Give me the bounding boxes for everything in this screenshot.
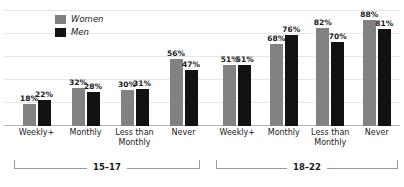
bar-women[interactable]: 30%	[121, 6, 134, 126]
bracket-label-15-17: 15–17	[87, 161, 127, 174]
bar-men[interactable]: 76%	[285, 6, 298, 126]
category-weekly-plus: 18% 22%	[12, 6, 61, 126]
x-label-line1: Weekly+	[214, 128, 261, 138]
bar-men[interactable]: 47%	[185, 6, 198, 126]
x-label-line2: Monthly	[110, 138, 159, 148]
bar-women[interactable]: 68%	[270, 6, 283, 126]
bar-rect-men[interactable]	[285, 35, 298, 126]
bar-value-women: 56%	[167, 49, 185, 58]
legend-swatch-women-icon	[55, 15, 66, 24]
bar-rect-men[interactable]	[331, 42, 344, 126]
bar-value-women: 82%	[314, 18, 332, 27]
x-label-monthly: Monthly	[61, 128, 110, 154]
bar-value-women: 68%	[267, 34, 285, 43]
bar-rect-women[interactable]	[170, 59, 183, 126]
legend-label-men: Men	[71, 28, 89, 37]
category-less-than-monthly: 82% 70%	[307, 6, 354, 126]
bar-men[interactable]: 70%	[331, 6, 344, 126]
x-label-less-than-monthly: Less than Monthly	[307, 128, 354, 154]
age-group-18-22: 51% 51% 68%	[214, 6, 400, 126]
bar-rect-women[interactable]	[223, 65, 236, 126]
x-label-line1: Weekly+	[12, 128, 61, 138]
group-brackets: 15–17 18–22	[4, 160, 400, 182]
bar-men[interactable]: 31%	[136, 6, 149, 126]
x-label-weekly-plus: Weekly+	[214, 128, 261, 154]
bar-women[interactable]: 56%	[170, 6, 183, 126]
plot-area: Women Men 18% 22%	[4, 6, 400, 126]
x-label-line2: Monthly	[307, 138, 354, 148]
bar-men[interactable]: 81%	[378, 6, 391, 126]
bar-women[interactable]: 88%	[363, 6, 376, 126]
x-label-line1: Less than	[110, 128, 159, 138]
bar-value-men: 81%	[375, 19, 393, 28]
bar-value-men: 70%	[329, 32, 347, 41]
bar-value-men: 76%	[282, 25, 300, 34]
x-label-never: Never	[159, 128, 208, 154]
bar-rect-women[interactable]	[270, 44, 283, 126]
bracket-label-18-22: 18–22	[287, 161, 327, 174]
bar-value-men: 28%	[84, 82, 102, 91]
bar-value-men: 47%	[182, 60, 200, 69]
category-weekly-plus: 51% 51%	[214, 6, 261, 126]
bracket-18-22: 18–22	[216, 160, 398, 178]
legend-item-men: Men	[55, 27, 104, 37]
category-never: 56% 47%	[159, 6, 208, 126]
bar-rect-women[interactable]	[316, 28, 329, 126]
legend-label-women: Women	[71, 15, 104, 24]
bar-rect-women[interactable]	[23, 104, 36, 126]
x-label-line1: Less than	[307, 128, 354, 138]
legend-swatch-men-icon	[55, 28, 66, 37]
category-less-than-monthly: 30% 31%	[110, 6, 159, 126]
bar-rect-men[interactable]	[136, 89, 149, 126]
bar-rect-men[interactable]	[87, 92, 100, 126]
legend-item-women: Women	[55, 14, 104, 24]
bar-value-men: 51%	[236, 55, 254, 64]
bar-rect-women[interactable]	[72, 88, 85, 126]
x-axis-labels-15-17: Weekly+ Monthly Less than Monthly Never	[12, 128, 208, 154]
x-label-line1: Never	[354, 128, 401, 138]
bar-women[interactable]: 51%	[223, 6, 236, 126]
bar-rect-men[interactable]	[38, 100, 51, 126]
bar-men[interactable]: 22%	[38, 6, 51, 126]
grouped-bar-chart: Women Men 18% 22%	[0, 0, 404, 187]
x-label-line1: Monthly	[261, 128, 308, 138]
category-monthly: 68% 76%	[261, 6, 308, 126]
bar-rect-men[interactable]	[185, 70, 198, 126]
bar-rect-men[interactable]	[378, 29, 391, 126]
x-label-weekly-plus: Weekly+	[12, 128, 61, 154]
bar-rect-women[interactable]	[121, 90, 134, 126]
x-label-monthly: Monthly	[261, 128, 308, 154]
x-label-less-than-monthly: Less than Monthly	[110, 128, 159, 154]
age-group-15-17: 18% 22% 32%	[12, 6, 208, 126]
chart-legend: Women Men	[55, 14, 104, 37]
bar-value-men: 22%	[35, 90, 53, 99]
x-axis-labels: Weekly+ Monthly Less than Monthly Never …	[4, 128, 400, 154]
bar-value-men: 31%	[133, 79, 151, 88]
category-never: 88% 81%	[354, 6, 401, 126]
bracket-15-17: 15–17	[14, 160, 200, 178]
bar-women[interactable]: 18%	[23, 6, 36, 126]
bar-men[interactable]: 51%	[238, 6, 251, 126]
bar-rect-men[interactable]	[238, 65, 251, 126]
bar-rect-women[interactable]	[363, 20, 376, 126]
bar-women[interactable]: 82%	[316, 6, 329, 126]
x-axis-labels-18-22: Weekly+ Monthly Less than Monthly Never	[214, 128, 400, 154]
x-label-never: Never	[354, 128, 401, 154]
x-label-line1: Monthly	[61, 128, 110, 138]
x-label-line1: Never	[159, 128, 208, 138]
